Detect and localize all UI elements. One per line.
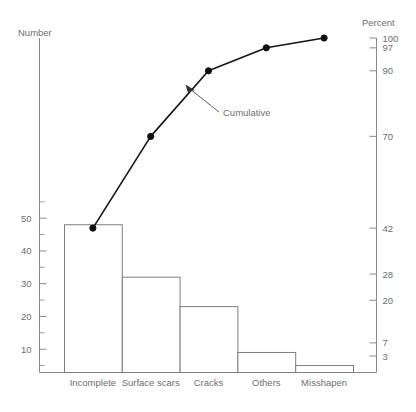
cumulative-point: [263, 45, 269, 51]
cumulative-point: [90, 225, 96, 231]
cumulative-annotation: Cumulative: [186, 85, 271, 119]
category-label: Surface scars: [122, 377, 180, 388]
category-label: Cracks: [194, 377, 224, 388]
annotation-label: Cumulative: [223, 107, 271, 118]
bar: [180, 307, 238, 373]
bar: [238, 352, 296, 372]
right-tick-label: 90: [383, 65, 394, 76]
cumulative-line: [93, 38, 324, 228]
left-tick-label: 40: [21, 245, 32, 256]
left-tick-label: 50: [21, 213, 32, 224]
cumulative-line-group: [90, 35, 327, 231]
right-tick-label: 3: [383, 351, 388, 362]
cumulative-points: [90, 35, 327, 231]
cumulative-point: [148, 133, 154, 139]
right-axis-ticks: 10097907042282073: [370, 33, 399, 362]
annotation-leader-line: [190, 89, 219, 112]
bar-group: [65, 225, 354, 373]
left-tick-label: 20: [21, 311, 32, 322]
category-label: Others: [252, 377, 281, 388]
left-tick-label: 10: [21, 344, 32, 355]
pareto-chart: Number Percent 5040302010 10097907042282…: [0, 0, 416, 412]
right-tick-label: 97: [383, 42, 394, 53]
right-tick-label: 20: [383, 295, 394, 306]
category-label: Misshapen: [301, 377, 347, 388]
left-axis-title: Number: [18, 27, 52, 38]
right-tick-label: 70: [383, 131, 394, 142]
left-tick-label: 30: [21, 278, 32, 289]
right-axis-title: Percent: [362, 17, 395, 28]
pareto-chart-canvas: Number Percent 5040302010 10097907042282…: [0, 0, 416, 412]
right-tick-label: 7: [383, 337, 388, 348]
left-axis-ticks: 5040302010: [21, 213, 47, 355]
bar: [296, 366, 354, 373]
right-tick-label: 42: [383, 223, 394, 234]
cumulative-point: [321, 35, 327, 41]
right-tick-label: 28: [383, 269, 394, 280]
category-label: Incomplete: [70, 377, 116, 388]
bar: [65, 225, 123, 373]
bar: [122, 277, 180, 372]
cumulative-point: [205, 68, 211, 74]
category-labels: IncompleteSurface scarsCracksOthersMissh…: [70, 377, 347, 388]
